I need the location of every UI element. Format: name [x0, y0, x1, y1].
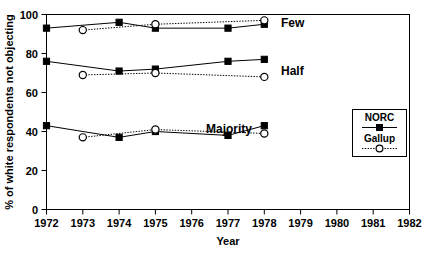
- data-point: [79, 27, 86, 34]
- data-point: [261, 73, 268, 80]
- x-tick-label: 1979: [288, 217, 312, 229]
- data-point: [225, 25, 231, 31]
- data-point: [261, 123, 267, 129]
- data-point: [261, 17, 268, 24]
- x-tick-label: 1980: [325, 217, 349, 229]
- data-point: [225, 58, 231, 64]
- group-annotation-half: Half: [281, 64, 305, 78]
- x-tick-label: 1981: [361, 217, 385, 229]
- data-point: [152, 69, 159, 76]
- chart-figure: 100 80 60 40 20 0 1972 1973 1974 1975: [0, 0, 426, 257]
- data-point: [152, 126, 159, 133]
- x-tick-label: 1974: [107, 217, 132, 229]
- legend-label-gallup: Gallup: [364, 133, 395, 144]
- x-tick-label: 1982: [397, 217, 421, 229]
- x-tick-label: 1973: [71, 217, 95, 229]
- y-tick-label: 100: [20, 9, 38, 21]
- line-chart: 100 80 60 40 20 0 1972 1973 1974 1975: [0, 0, 426, 257]
- data-point: [43, 123, 49, 129]
- x-tick-label: 1977: [216, 217, 240, 229]
- data-point: [79, 134, 86, 141]
- group-annotation-few: Few: [281, 16, 305, 30]
- x-axis-ticks: [47, 210, 410, 215]
- x-axis-tick-labels: 1972 1973 1974 1975 1976 1977 1978 1979 …: [34, 217, 421, 229]
- y-tick-label: 60: [26, 87, 38, 99]
- series-line: [83, 73, 264, 77]
- data-point: [43, 25, 49, 31]
- x-tick-label: 1972: [34, 217, 58, 229]
- series-few-gallup: [79, 17, 268, 34]
- data-point: [116, 134, 122, 140]
- data-point: [43, 58, 49, 64]
- y-axis-title: % of white respondents not objecting: [3, 14, 15, 210]
- y-axis-tick-labels: 100 80 60 40 20 0: [20, 9, 38, 216]
- data-point: [116, 68, 122, 74]
- group-annotation-majority: Majority: [206, 122, 252, 136]
- y-tick-label: 20: [26, 165, 38, 177]
- x-axis-title: Year: [216, 235, 240, 247]
- data-point: [152, 21, 159, 28]
- data-point: [261, 56, 267, 62]
- y-tick-label: 80: [26, 48, 38, 60]
- y-axis-ticks: [42, 15, 47, 210]
- y-tick-label: 40: [26, 126, 38, 138]
- chart-legend: NORC Gallup: [353, 110, 407, 157]
- data-point: [261, 130, 268, 137]
- y-tick-label: 0: [32, 204, 38, 216]
- x-tick-label: 1978: [252, 217, 276, 229]
- legend-label-norc: NORC: [365, 112, 394, 123]
- x-tick-label: 1976: [179, 217, 203, 229]
- data-point: [116, 19, 122, 25]
- data-point: [79, 71, 86, 78]
- series-half-gallup: [79, 69, 268, 80]
- x-tick-label: 1975: [143, 217, 167, 229]
